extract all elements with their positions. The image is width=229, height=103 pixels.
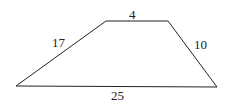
right-side-label: 10 [194, 38, 207, 51]
trapezoid-diagram: 4 17 10 25 [0, 0, 229, 103]
top-side-label: 4 [129, 8, 136, 21]
bottom-side-label: 25 [111, 89, 124, 102]
left-side-label: 17 [52, 36, 65, 49]
